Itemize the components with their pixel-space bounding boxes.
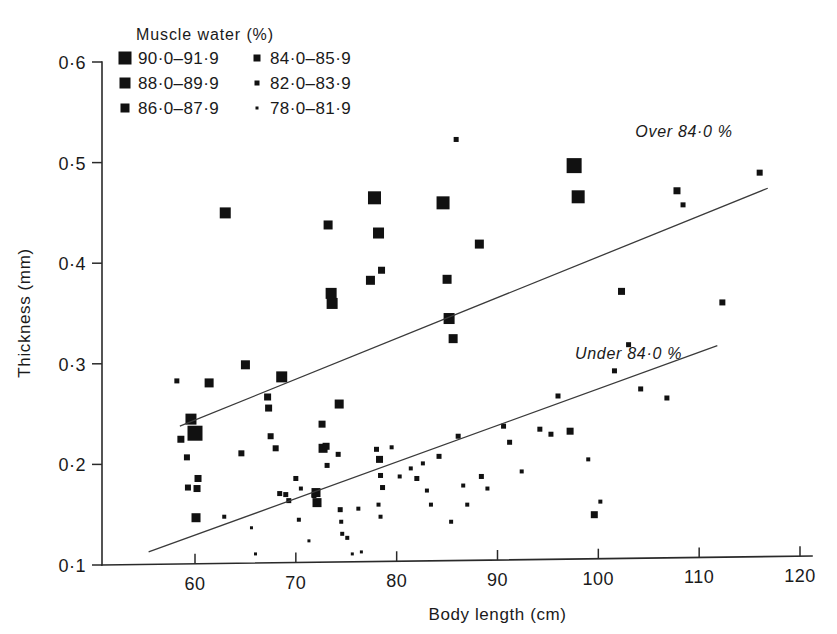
y-ticks-group: 0·60·50·40·30·20·1: [58, 53, 102, 576]
data-point: [283, 492, 288, 497]
legend-swatch: [119, 52, 132, 65]
x-tick-label: 70: [285, 573, 306, 593]
data-point: [673, 187, 680, 194]
x-axis-line: [102, 556, 812, 565]
legend-label: 86·0–87·9: [138, 99, 219, 118]
y-tick-label: 0·5: [58, 154, 86, 174]
trendline: [180, 188, 768, 426]
data-point: [356, 507, 360, 511]
legend-item: 88·0–89·9: [120, 74, 220, 93]
data-point: [268, 433, 274, 439]
data-point: [461, 484, 465, 488]
data-point: [548, 432, 553, 437]
data-point: [612, 368, 617, 373]
data-point: [567, 428, 574, 435]
data-point: [409, 466, 413, 470]
data-point: [425, 489, 429, 493]
data-point: [475, 240, 484, 249]
data-point: [373, 228, 384, 239]
data-point: [485, 487, 489, 491]
data-point: [313, 498, 322, 507]
data-point: [326, 288, 337, 299]
scatter-plot-figure: 0·60·50·40·30·20·1 60708090100110120 Ove…: [0, 0, 837, 634]
data-point: [572, 190, 585, 203]
legend-label: 78·0–81·9: [270, 99, 351, 118]
data-point: [443, 275, 452, 284]
legend-entries: 90·0–91·988·0–89·986·0–87·984·0–85·982·0…: [119, 49, 352, 118]
x-tick-label: 60: [184, 574, 205, 594]
data-point: [479, 474, 484, 479]
data-point: [390, 445, 394, 449]
data-point: [456, 434, 461, 439]
data-point: [327, 298, 338, 309]
legend-label: 84·0–85·9: [270, 49, 351, 68]
data-point: [618, 288, 625, 295]
data-point: [414, 476, 419, 481]
annotations-group: Over 84·0 %Under 84·0 %: [575, 123, 733, 361]
data-point: [378, 267, 385, 274]
data-point: [520, 469, 524, 473]
x-tick-label: 120: [784, 566, 816, 586]
legend-swatch: [256, 107, 259, 110]
legend-item: 82·0–83·9: [255, 74, 352, 93]
data-point: [192, 513, 201, 522]
data-point: [556, 393, 561, 398]
data-point: [340, 532, 344, 536]
data-point: [378, 473, 383, 478]
data-point: [335, 400, 344, 409]
data-point: [265, 405, 272, 412]
data-point: [429, 503, 433, 507]
data-point: [276, 371, 287, 382]
data-point: [719, 299, 725, 305]
plot-canvas: 0·60·50·40·30·20·1 60708090100110120 Ove…: [0, 0, 837, 634]
data-point: [338, 507, 343, 512]
data-point: [195, 475, 202, 482]
data-point: [368, 191, 381, 204]
data-point: [598, 500, 602, 504]
data-point: [421, 461, 425, 465]
legend-swatch: [255, 81, 260, 86]
data-point: [299, 487, 303, 491]
data-point: [293, 476, 298, 481]
trendline: [149, 346, 718, 552]
data-point: [374, 447, 379, 452]
data-point: [377, 503, 381, 507]
data-point: [222, 515, 226, 519]
data-point: [254, 552, 257, 555]
data-point: [185, 485, 191, 491]
data-point: [307, 539, 310, 542]
x-tick-label: 80: [386, 571, 407, 591]
legend-item: 78·0–81·9: [256, 99, 352, 118]
y-tick-label: 0·2: [58, 455, 86, 475]
data-point: [238, 450, 244, 456]
data-point: [638, 386, 643, 391]
data-point: [379, 515, 383, 519]
data-point: [220, 207, 231, 218]
legend-item: 86·0–87·9: [121, 99, 220, 118]
data-point: [437, 454, 442, 459]
x-ticks-group: 60708090100110120: [184, 546, 815, 594]
data-point: [351, 552, 354, 555]
data-point: [454, 137, 459, 142]
data-point: [184, 454, 190, 460]
data-point: [323, 443, 330, 450]
x-tick-label: 90: [487, 570, 508, 590]
data-point: [437, 196, 450, 209]
data-point: [537, 427, 542, 432]
data-point: [188, 426, 203, 441]
legend-label: 82·0–83·9: [270, 74, 351, 93]
trendline-annotation: Over 84·0 %: [635, 123, 733, 140]
data-point: [757, 170, 763, 176]
legend-swatch: [254, 55, 261, 62]
data-point: [194, 485, 201, 492]
x-tick-label: 110: [684, 567, 714, 587]
y-tick-label: 0·1: [58, 556, 86, 576]
legend-label: 90·0–91·9: [138, 49, 219, 68]
y-tick-label: 0·6: [58, 53, 86, 73]
data-point: [273, 445, 279, 451]
data-point: [591, 511, 598, 518]
data-point: [664, 396, 669, 401]
data-point: [177, 436, 184, 443]
legend-group: Muscle water (%) 90·0–91·988·0–89·986·0–…: [119, 26, 352, 118]
data-point: [264, 394, 271, 401]
